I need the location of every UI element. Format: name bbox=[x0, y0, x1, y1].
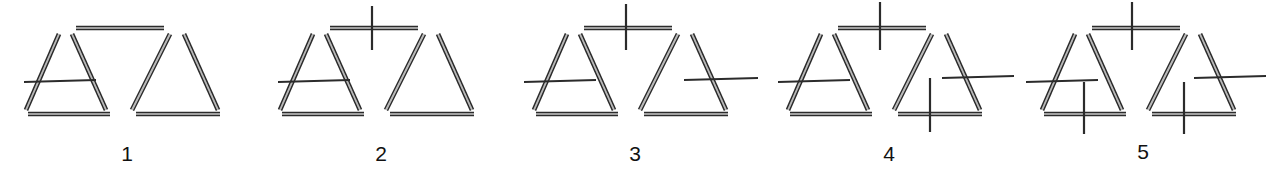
left-triangle-base bbox=[282, 112, 364, 115]
cross-right-side-horizontal bbox=[684, 78, 758, 80]
right-triangle-right-side bbox=[183, 33, 220, 110]
left-triangle-right-side bbox=[833, 33, 870, 110]
figure-label-4: 4 bbox=[762, 142, 1016, 166]
figure-drawing-4 bbox=[762, 0, 1016, 140]
left-triangle-left-side bbox=[25, 33, 61, 110]
left-triangle-left-side bbox=[279, 33, 315, 110]
right-triangle-base bbox=[390, 112, 474, 115]
left-triangle-left-side bbox=[787, 33, 823, 110]
figure-label-3: 3 bbox=[508, 142, 762, 166]
figure-cell-2: 2 bbox=[254, 0, 508, 183]
right-triangle-base bbox=[644, 112, 728, 115]
figure-drawing-3 bbox=[508, 0, 762, 140]
left-triangle-right-side bbox=[1087, 33, 1124, 110]
matchstick-figure-sheet: 12345 bbox=[0, 0, 1270, 183]
right-triangle-base bbox=[136, 112, 220, 115]
figure-cell-4: 4 bbox=[762, 0, 1016, 183]
figure-label-5: 5 bbox=[1016, 140, 1270, 164]
cross-left-side-horizontal bbox=[1026, 80, 1098, 82]
figure-cell-1: 1 bbox=[0, 0, 254, 183]
left-triangle-right-side bbox=[579, 33, 616, 110]
top-horizontal-bar bbox=[838, 26, 926, 29]
left-triangle-right-side bbox=[325, 33, 362, 110]
left-triangle-base bbox=[536, 112, 618, 115]
figure-drawing-1 bbox=[0, 0, 254, 140]
right-triangle-right-side bbox=[691, 33, 728, 110]
figure-label-2: 2 bbox=[254, 142, 508, 166]
figure-label-1: 1 bbox=[0, 142, 254, 166]
right-triangle-left-side bbox=[1147, 33, 1188, 110]
right-triangle-base bbox=[898, 112, 982, 115]
cross-left-side-horizontal bbox=[278, 80, 350, 82]
left-triangle-base bbox=[790, 112, 872, 115]
right-triangle-left-side bbox=[893, 33, 934, 110]
right-triangle-right-side bbox=[1199, 33, 1236, 110]
figure-cell-5: 5 bbox=[1016, 0, 1270, 183]
right-triangle-left-side bbox=[639, 33, 680, 110]
top-horizontal-bar bbox=[1092, 26, 1180, 29]
cross-left-side-horizontal bbox=[778, 80, 850, 82]
left-triangle-base bbox=[28, 112, 110, 115]
figure-cell-3: 3 bbox=[508, 0, 762, 183]
right-triangle-right-side bbox=[945, 33, 982, 110]
top-horizontal-bar bbox=[330, 26, 418, 29]
right-triangle-left-side bbox=[385, 33, 426, 110]
cross-right-side-horizontal bbox=[1194, 76, 1266, 78]
cross-left-side-horizontal bbox=[524, 80, 596, 82]
right-triangle-left-side bbox=[131, 33, 172, 110]
top-horizontal-bar bbox=[584, 26, 672, 29]
cross-left-side-horizontal bbox=[24, 80, 96, 82]
left-triangle-left-side bbox=[533, 33, 569, 110]
right-triangle-right-side bbox=[437, 33, 474, 110]
left-triangle-right-side bbox=[71, 33, 108, 110]
figure-drawing-2 bbox=[254, 0, 508, 140]
left-triangle-left-side bbox=[1041, 33, 1077, 110]
figure-drawing-5 bbox=[1016, 0, 1270, 140]
top-horizontal-bar bbox=[76, 26, 164, 29]
right-triangle-base bbox=[1152, 112, 1236, 115]
cross-right-side-horizontal bbox=[942, 76, 1014, 78]
